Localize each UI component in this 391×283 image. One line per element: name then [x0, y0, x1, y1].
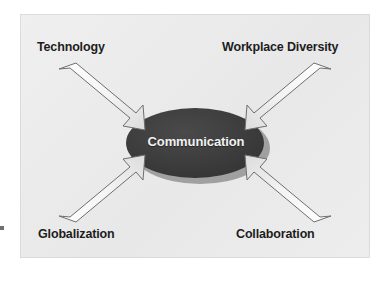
label-globalization: Globalization: [38, 227, 115, 241]
label-workplace-diversity: Workplace Diversity: [222, 40, 338, 54]
center-node-label: Communication: [126, 134, 266, 149]
edge-artifact-speck: [0, 226, 4, 230]
label-technology: Technology: [37, 40, 105, 54]
diagram-canvas: Communication Technology Workplace Diver…: [0, 0, 391, 283]
label-collaboration: Collaboration: [236, 227, 315, 241]
